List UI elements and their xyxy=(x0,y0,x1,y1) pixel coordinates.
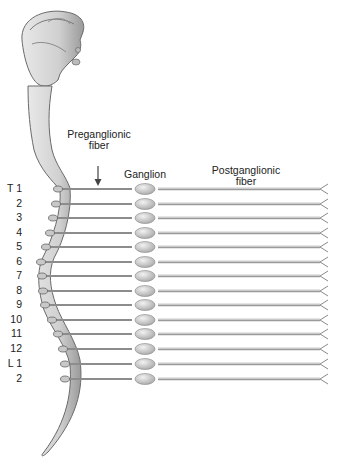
nerve-row xyxy=(38,271,329,282)
terminal-icon xyxy=(320,213,328,223)
segment-label: 3 xyxy=(0,212,22,223)
segment-label: 7 xyxy=(0,270,22,281)
postganglionic-line2: fiber xyxy=(206,176,286,187)
segment-label: 6 xyxy=(0,256,22,267)
terminal-icon xyxy=(320,184,328,194)
cell-body xyxy=(49,215,58,221)
cell-body xyxy=(38,273,47,279)
nerve-row xyxy=(41,300,329,311)
nerve-row xyxy=(54,329,329,340)
nerve-row xyxy=(61,359,329,370)
ganglion-icon xyxy=(135,271,155,282)
segment-label: 5 xyxy=(0,241,22,252)
terminal-icon xyxy=(320,344,328,354)
ganglion-icon xyxy=(135,228,155,239)
ganglion-icon xyxy=(135,329,155,340)
terminal-icon xyxy=(320,199,328,209)
diagram-canvas xyxy=(0,0,337,463)
segment-label: 11 xyxy=(0,328,22,339)
terminal-icon xyxy=(320,257,328,267)
ganglion-icon xyxy=(135,257,155,268)
ganglion-icon xyxy=(135,300,155,311)
segment-label: 12 xyxy=(0,343,22,354)
ganglion-icon xyxy=(135,286,155,297)
segment-label: 2 xyxy=(0,198,22,209)
ganglion-icon xyxy=(135,184,155,195)
cell-body xyxy=(42,244,51,250)
cell-body xyxy=(48,317,57,323)
segment-label: 2 xyxy=(0,373,22,384)
segment-label: 8 xyxy=(0,285,22,296)
segment-label: 9 xyxy=(0,299,22,310)
cell-body xyxy=(61,361,70,367)
postganglionic-fiber-label: Postganglionic fiber xyxy=(206,165,286,187)
terminal-icon xyxy=(320,228,328,238)
ganglion-icon xyxy=(135,199,155,210)
terminal-icon xyxy=(320,300,328,310)
cell-body xyxy=(54,186,63,192)
nerve-row xyxy=(46,228,329,239)
cell-body xyxy=(46,230,55,236)
terminal-icon xyxy=(320,359,328,369)
ganglion-icon xyxy=(135,315,155,326)
nerve-row xyxy=(37,257,329,268)
terminal-icon xyxy=(320,374,328,384)
preganglionic-line2: fiber xyxy=(62,140,136,151)
cell-body xyxy=(37,259,46,265)
segment-label: 10 xyxy=(0,314,22,325)
ganglion-icon xyxy=(135,213,155,224)
cell-body xyxy=(52,201,61,207)
ganglion-label: Ganglion xyxy=(124,169,166,180)
nerve-row xyxy=(59,344,329,355)
ganglion-icon xyxy=(135,344,155,355)
terminal-icon xyxy=(320,286,328,296)
segment-label: L 1 xyxy=(0,358,22,369)
nerve-row xyxy=(48,315,329,326)
cell-body xyxy=(59,346,68,352)
nerve-row xyxy=(52,199,329,210)
segment-label: T 1 xyxy=(0,183,22,194)
brain-icon xyxy=(22,11,84,86)
cell-body xyxy=(41,302,50,308)
ganglion-icon xyxy=(135,359,155,370)
nerve-row xyxy=(54,184,329,195)
terminal-icon xyxy=(320,242,328,252)
ganglion-icon xyxy=(135,242,155,253)
terminal-icon xyxy=(320,315,328,325)
preganglionic-fiber-label: Preganglionic fiber xyxy=(62,129,136,151)
nerve-row xyxy=(61,374,329,385)
cell-body xyxy=(61,376,70,382)
ganglion-icon xyxy=(135,374,155,385)
terminal-icon xyxy=(320,271,328,281)
segment-label: 4 xyxy=(0,227,22,238)
nerve-row xyxy=(39,286,329,297)
terminal-icon xyxy=(320,329,328,339)
nerve-row xyxy=(49,213,329,224)
cell-body xyxy=(54,331,63,337)
nerve-row xyxy=(42,242,329,253)
cell-body xyxy=(39,288,48,294)
